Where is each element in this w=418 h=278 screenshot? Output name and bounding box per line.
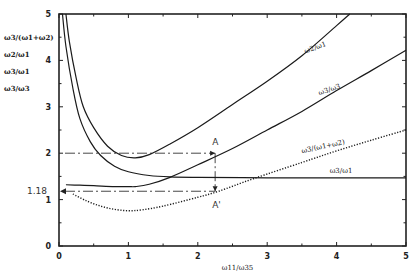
y-axis-label: ω3/(ω1+ω2) (4, 33, 54, 42)
arrowhead-y-axis (60, 188, 66, 194)
x-tick-label: 1 (126, 252, 132, 261)
y-tick-label: 3 (45, 103, 51, 112)
x-tick-label: 5 (403, 252, 409, 261)
y-tick-label: 5 (45, 10, 51, 19)
y-tick-label: 0 (45, 242, 51, 251)
series-group (62, 14, 406, 211)
y-axis-label: ω3/ω3 (4, 84, 30, 93)
x-axis-label: ω11/ω35 (222, 264, 254, 272)
annotation-point-a-prime: A' (212, 200, 221, 210)
series-line (62, 14, 406, 178)
arrowhead-a (210, 151, 215, 156)
y-tick-label: 4 (45, 56, 51, 65)
x-tick-label: 3 (264, 252, 270, 261)
y-axis-label: ω2/ω1 (4, 50, 30, 59)
arrowhead-a-prime (213, 186, 218, 191)
x-tick-label: 4 (334, 252, 340, 261)
y-axis-label: ω3/ω1 (4, 67, 30, 76)
annotation-value: 1.18 (27, 186, 47, 196)
annotation-point-a: A (212, 137, 219, 147)
axes: 012345012345ω11/ω35ω3/(ω1+ω2)ω2/ω1ω3/ω1ω… (4, 10, 409, 272)
curve-label: ω3/(ω1+ω2) (301, 138, 346, 155)
x-tick-label: 2 (195, 252, 201, 261)
series-line (66, 14, 350, 158)
curve-label: ω3/ω1 (330, 167, 353, 175)
curve-label: ω2/ω1 (303, 40, 327, 55)
x-tick-label: 0 (56, 252, 62, 261)
series-line (66, 50, 406, 187)
y-tick-label: 2 (45, 149, 51, 158)
plot-frame (59, 14, 406, 246)
chart: 012345012345ω11/ω35ω3/(ω1+ω2)ω2/ω1ω3/ω1ω… (0, 0, 418, 278)
y-tick-label: 1 (45, 196, 51, 205)
